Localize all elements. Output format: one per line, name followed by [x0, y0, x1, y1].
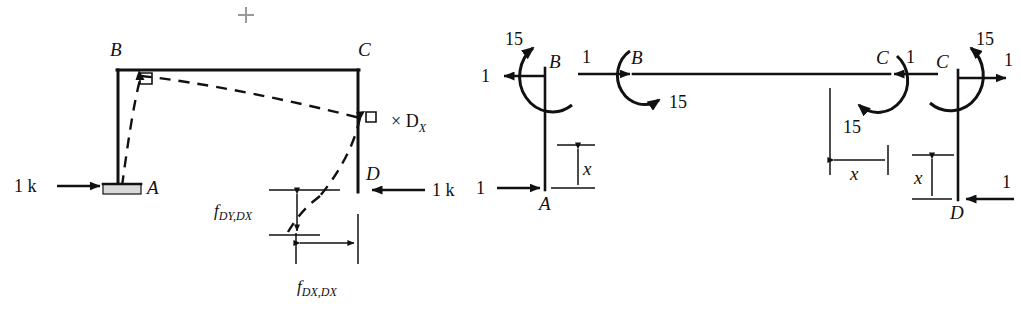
- fbd-CD-force-top-label: 1: [1004, 50, 1013, 70]
- fbd-BC-joint-label-B: B: [631, 47, 643, 68]
- dimension-label-fdydx: fDY,DX: [214, 201, 253, 223]
- right-angle-marker-D: [366, 112, 376, 122]
- fbd-AB-dimension-label: x: [582, 158, 592, 179]
- deflected-shape-AB: [122, 76, 141, 186]
- deflected-shape-BC: [141, 76, 360, 118]
- fbd-BC-joint-label-C: C: [876, 47, 889, 68]
- fbd-BC-moment-label-C: 15: [843, 117, 861, 137]
- fbd-BC-force-right-label: 1: [906, 47, 915, 67]
- joint-label-A: A: [145, 177, 159, 198]
- unit-load-label-A: 1 k: [14, 176, 37, 196]
- joint-label-C: C: [358, 39, 371, 60]
- plus-mark-icon: [238, 7, 254, 23]
- fbd-member-AB: 15 1 1 B A x: [476, 29, 595, 214]
- fbd-AB-joint-label-A: A: [537, 193, 551, 214]
- figure-canvas: 1 k 1 k B C A D × DX fDY,DX: [0, 0, 1021, 314]
- fbd-member-CD: 15 1 1 C D x: [912, 29, 1014, 223]
- fbd-AB-joint-label-B: B: [549, 51, 561, 72]
- multiplier-times-Dx-label: × DX: [391, 111, 427, 135]
- fbd-BC-dimension-label: x: [849, 163, 859, 184]
- fbd-CD-joint-label-D: D: [949, 202, 964, 223]
- fbd-BC-moment-label-B: 15: [669, 92, 687, 112]
- fbd-AB-force-bottom-label: 1: [476, 178, 485, 198]
- joint-label-D: D: [365, 163, 380, 184]
- fbd-CD-joint-label-C: C: [936, 51, 949, 72]
- dimension-fdydx: [269, 190, 340, 235]
- dimension-label-fdxdx: fDX,DX: [297, 277, 337, 299]
- fbd-AB-moment-label: 15: [505, 29, 523, 49]
- joint-label-B: B: [110, 39, 122, 60]
- right-free-body-diagrams: 15 1 1 B A x: [476, 29, 1014, 223]
- deflected-shape-tail-D: [288, 196, 320, 232]
- left-frame-diagram: 1 k 1 k B C A D × DX fDY,DX: [14, 39, 455, 299]
- dimension-fdxdx: [296, 214, 358, 264]
- structural-analysis-figure: 1 k 1 k B C A D × DX fDY,DX: [0, 0, 1021, 314]
- unit-load-label-D: 1 k: [432, 180, 455, 200]
- fbd-AB-force-top-label: 1: [481, 66, 490, 86]
- fbd-member-BC: 15 1 15 1 B C x: [578, 47, 938, 184]
- deflected-shape-CD: [320, 118, 360, 196]
- fbd-CD-force-bottom-label: 1: [1002, 172, 1011, 192]
- fbd-BC-force-left-label: 1: [582, 47, 591, 67]
- fixed-support-A: [103, 184, 141, 194]
- fbd-CD-dimension-label: x: [913, 167, 923, 188]
- fbd-CD-moment-label: 15: [976, 29, 994, 49]
